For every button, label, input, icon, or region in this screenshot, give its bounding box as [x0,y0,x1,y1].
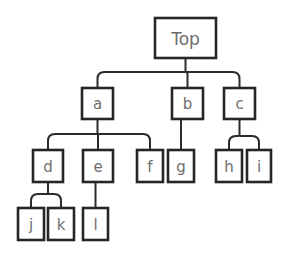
tree-node-label-d: d [43,158,53,176]
tree-node-c[interactable]: c [224,88,255,119]
tree-node-d[interactable]: d [33,150,63,182]
tree-node-i[interactable]: i [247,150,271,182]
edge-layer [31,58,259,208]
tree-node-e[interactable]: e [83,150,113,182]
tree-node-label-h: h [224,158,234,176]
node-layer: Topabcdefghijkl [18,18,271,240]
tree-node-label-top: Top [170,29,200,49]
tree-node-label-b: b [183,95,193,113]
edge-c-to-h [229,136,240,150]
tree-node-f[interactable]: f [137,150,163,182]
tree-node-k[interactable]: k [48,208,74,240]
tree-node-label-l: l [93,216,97,234]
tree-node-l[interactable]: l [83,208,108,240]
tree-node-g[interactable]: g [168,150,194,182]
edge-d-to-j [31,194,48,208]
edge-top-to-c [186,72,240,88]
edge-top-to-b [186,72,188,88]
tree-node-top[interactable]: Top [155,18,216,58]
tree-node-label-k: k [57,216,66,234]
edge-d-to-k [48,194,61,208]
tree-node-j[interactable]: j [18,208,44,240]
tree-node-label-i: i [257,158,261,176]
tree-node-label-e: e [93,158,102,176]
tree-node-b[interactable]: b [172,88,203,119]
tree-node-label-g: g [176,158,186,176]
tree-node-a[interactable]: a [82,88,113,119]
tree-diagram: Topabcdefghijkl [0,0,297,258]
edge-c-to-i [240,136,260,150]
tree-node-h[interactable]: h [216,150,242,182]
edge-top-to-a [98,72,186,88]
tree-node-label-f: f [147,158,153,176]
tree-node-label-a: a [93,95,102,113]
edge-a-to-d [48,134,98,150]
edge-a-to-f [98,134,151,150]
tree-node-label-j: j [28,216,33,234]
tree-diagram-canvas: Topabcdefghijkl [0,0,297,258]
tree-node-label-c: c [235,95,243,113]
